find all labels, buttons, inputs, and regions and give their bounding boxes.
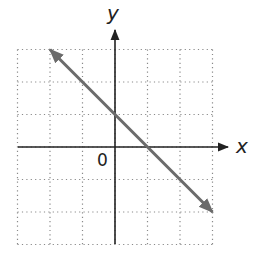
origin-label: 0	[97, 150, 108, 170]
coordinate-graph: x y 0	[0, 0, 259, 263]
plotted-line	[50, 50, 213, 213]
y-axis-label: y	[106, 1, 120, 25]
x-axis-label: x	[235, 134, 248, 158]
